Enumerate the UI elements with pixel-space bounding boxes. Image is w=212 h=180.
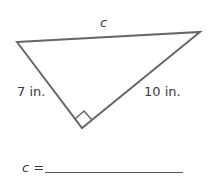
right-leg-label: 10 in. [144,84,181,99]
answer-blank[interactable] [45,172,183,173]
answer-prompt: c = [22,160,44,175]
hypotenuse-label: c [100,15,107,30]
right-triangle [17,32,200,128]
left-leg-label: 7 in. [17,84,45,99]
right-angle-marker [75,111,92,120]
